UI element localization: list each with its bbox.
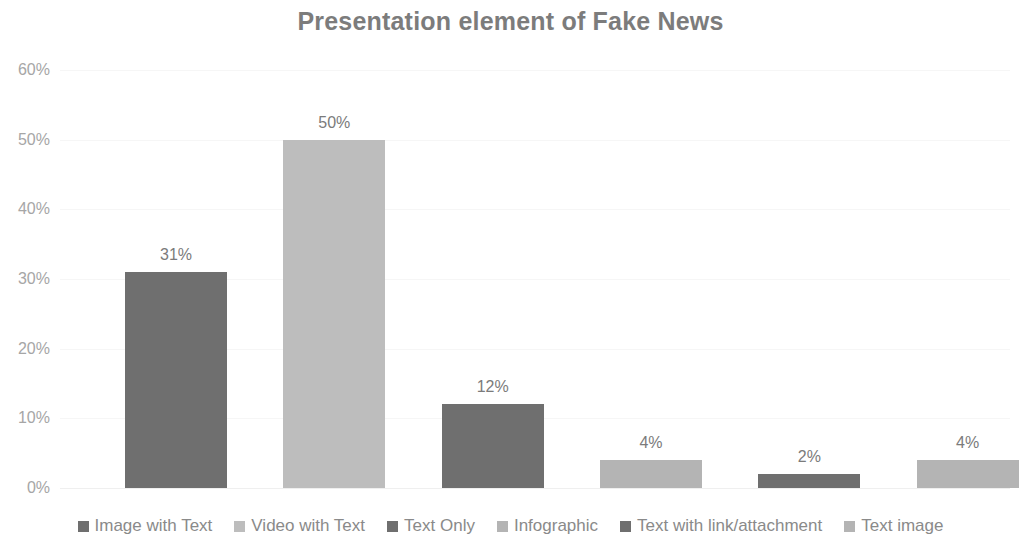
legend-item-label: Text with link/attachment bbox=[637, 516, 822, 536]
plot-area: 31%50%12%4%2%4% bbox=[60, 70, 1010, 488]
bar-value-label: 50% bbox=[274, 114, 394, 132]
legend-item-label: Text Only bbox=[404, 516, 475, 536]
bar-chart: Presentation element of Fake News 31%50%… bbox=[0, 0, 1021, 543]
bar-value-label: 4% bbox=[591, 434, 711, 452]
legend-item[interactable]: Text Only bbox=[387, 516, 475, 536]
x-axis-line bbox=[60, 488, 1010, 489]
bar-value-label: 2% bbox=[749, 448, 869, 466]
bar-value-label: 12% bbox=[433, 378, 553, 396]
legend-swatch-icon bbox=[497, 521, 508, 532]
y-axis-tick-label: 0% bbox=[0, 480, 50, 496]
legend-item-label: Infographic bbox=[514, 516, 598, 536]
legend-item-label: Text image bbox=[861, 516, 943, 536]
gridline bbox=[60, 140, 1010, 141]
gridline bbox=[60, 70, 1010, 71]
bar-value-label: 4% bbox=[908, 434, 1021, 452]
y-axis-tick-label: 50% bbox=[0, 132, 50, 148]
y-axis-tick-label: 40% bbox=[0, 201, 50, 217]
chart-legend: Image with TextVideo with TextText OnlyI… bbox=[0, 516, 1021, 536]
y-axis-tick-label: 10% bbox=[0, 410, 50, 426]
legend-swatch-icon bbox=[78, 521, 89, 532]
legend-item[interactable]: Infographic bbox=[497, 516, 598, 536]
legend-item[interactable]: Video with Text bbox=[234, 516, 365, 536]
legend-item[interactable]: Image with Text bbox=[78, 516, 213, 536]
legend-item[interactable]: Text with link/attachment bbox=[620, 516, 822, 536]
gridline bbox=[60, 209, 1010, 210]
legend-swatch-icon bbox=[620, 521, 631, 532]
y-axis-tick-label: 60% bbox=[0, 62, 50, 78]
legend-swatch-icon bbox=[234, 521, 245, 532]
bar-value-label: 31% bbox=[116, 246, 236, 264]
bar bbox=[917, 460, 1019, 488]
bar bbox=[600, 460, 702, 488]
bar bbox=[442, 404, 544, 488]
legend-item-label: Image with Text bbox=[95, 516, 213, 536]
legend-item[interactable]: Text image bbox=[844, 516, 943, 536]
legend-swatch-icon bbox=[387, 521, 398, 532]
y-axis-tick-label: 20% bbox=[0, 341, 50, 357]
bar bbox=[283, 140, 385, 488]
bar bbox=[125, 272, 227, 488]
chart-title: Presentation element of Fake News bbox=[0, 4, 1021, 38]
y-axis-tick-label: 30% bbox=[0, 271, 50, 287]
legend-swatch-icon bbox=[844, 521, 855, 532]
bar bbox=[758, 474, 860, 488]
legend-item-label: Video with Text bbox=[251, 516, 365, 536]
